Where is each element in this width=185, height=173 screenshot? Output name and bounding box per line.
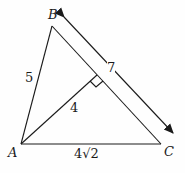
altitude — [21, 75, 97, 144]
right-angle-marker — [90, 81, 103, 87]
altitude-label: 4 — [70, 101, 78, 114]
diagram-canvas: B 5 7 4 A 4√2 C — [0, 0, 185, 173]
vertex-a-label: A — [8, 146, 17, 159]
bc-length-arrow — [64, 17, 173, 133]
vertex-c-label: C — [164, 145, 174, 158]
bc-length-label: 7 — [107, 61, 115, 74]
side-ab-label: 5 — [25, 71, 33, 84]
side-ab — [21, 26, 52, 144]
side-bc — [52, 26, 161, 144]
vertex-b-label: B — [48, 8, 58, 21]
side-ac-label: 4√2 — [74, 147, 99, 160]
